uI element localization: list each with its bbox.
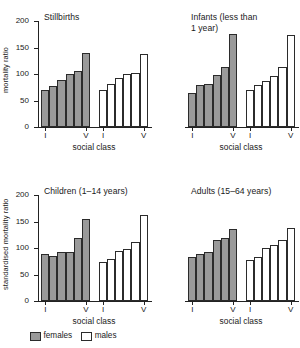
panel-stillbirths: Stillbirths 050100150200 IVIV social cla… (16, 10, 152, 168)
legend-item-males: males (81, 331, 116, 341)
bar (254, 85, 262, 127)
bar (115, 78, 123, 127)
y-axis-title-bottom: standardised mortality ratio (0, 174, 13, 314)
bar (66, 252, 74, 301)
x-tick-label: I (249, 131, 251, 141)
bar (262, 248, 270, 302)
chart-row-bottom: standardised mortality ratio Children (1… (0, 174, 300, 348)
bar (140, 54, 148, 127)
bar (270, 76, 278, 127)
bar (99, 90, 107, 127)
bar (74, 238, 82, 301)
x-axis-title-stillbirths: social class (38, 142, 150, 152)
bar (270, 245, 278, 301)
panel-title-adults: Adults (15–64 years) (191, 186, 271, 197)
panel-children: Children (1–14 years) 050100150200 IVIV … (16, 184, 152, 342)
x-tick-label: V (230, 305, 235, 315)
plot-area-adults: IVIV (185, 196, 297, 302)
bar (131, 73, 139, 127)
y-tick-label: 0 (25, 296, 29, 306)
x-tick-label: V (288, 305, 293, 315)
bar (66, 74, 74, 127)
bars-males (99, 22, 148, 127)
bar-group-infants (186, 22, 297, 127)
y-tick-label: 100 (16, 69, 29, 79)
bar-group-children (39, 196, 150, 301)
y-tick-label: 50 (20, 96, 29, 106)
plot-area-infants: IVIV (185, 22, 297, 128)
x-tick-label: I (44, 305, 46, 315)
bars-males (246, 22, 295, 127)
x-tick-label: V (83, 305, 88, 315)
x-axis-title-children: social class (38, 316, 150, 326)
bar (82, 219, 90, 301)
bar (204, 84, 212, 127)
plot-area-children: 050100150200 IVIV (38, 196, 150, 302)
x-tick-label: I (191, 131, 193, 141)
legend: females males (30, 331, 123, 341)
legend-label-females: females (44, 331, 73, 341)
bar (246, 260, 254, 301)
plot-area-stillbirths: 050100150200 IVIV (38, 22, 150, 128)
bars-males (246, 196, 295, 301)
bar (196, 254, 204, 301)
panel-adults: Adults (15–64 years) IVIV social class (163, 184, 299, 342)
bar (262, 81, 270, 127)
panel-title-stillbirths: Stillbirths (44, 12, 79, 23)
bar (131, 242, 139, 301)
bar (287, 228, 295, 301)
x-tick-label: V (288, 131, 293, 141)
panel-title-children: Children (1–14 years) (44, 186, 128, 197)
bar (213, 75, 221, 127)
y-tick-label: 200 (16, 16, 29, 26)
bar (229, 34, 237, 127)
y-tick-label: 100 (16, 243, 29, 253)
bars-females (41, 22, 90, 127)
bar (123, 74, 131, 127)
bar (107, 259, 115, 301)
bars-females (188, 196, 237, 301)
bar (254, 257, 262, 301)
bar (57, 252, 65, 301)
bar-group-adults (186, 196, 297, 301)
bar (123, 249, 131, 301)
panel-infants: Infants (less than 1 year) IVIV social c… (163, 10, 299, 168)
legend-swatch-females-icon (30, 332, 41, 341)
bar (82, 53, 90, 127)
legend-swatch-males-icon (81, 332, 92, 341)
bar (41, 90, 49, 127)
legend-item-females: females (30, 331, 72, 341)
bar-group-stillbirths (39, 22, 150, 127)
bar (140, 215, 148, 301)
bar (246, 90, 254, 127)
bars-females (41, 196, 90, 301)
bar (213, 240, 221, 301)
bar (278, 240, 286, 301)
bar (204, 252, 212, 301)
y-tick-label: 0 (25, 122, 29, 132)
x-axis-title-infants: social class (185, 142, 297, 152)
bar (99, 262, 107, 301)
x-tick-label: I (44, 131, 46, 141)
bar (49, 86, 57, 127)
bar (57, 80, 65, 127)
y-tick-label: 150 (16, 217, 29, 227)
bar (221, 238, 229, 301)
x-tick-label: V (230, 131, 235, 141)
x-tick-label: V (141, 131, 146, 141)
bar (74, 71, 82, 127)
x-tick-label: I (102, 131, 104, 141)
bar (49, 256, 57, 301)
bars-females (188, 22, 237, 127)
chart-row-top: mortality ratio Stillbirths 050100150200… (0, 0, 300, 174)
y-tick-label: 50 (20, 270, 29, 280)
y-tick-label: 150 (16, 43, 29, 53)
x-tick-label: V (83, 131, 88, 141)
bar (221, 67, 229, 127)
legend-label-males: males (95, 331, 117, 341)
bar (107, 84, 115, 127)
x-tick-label: I (249, 305, 251, 315)
bar (278, 67, 286, 127)
bar (41, 254, 49, 301)
bar (115, 251, 123, 301)
